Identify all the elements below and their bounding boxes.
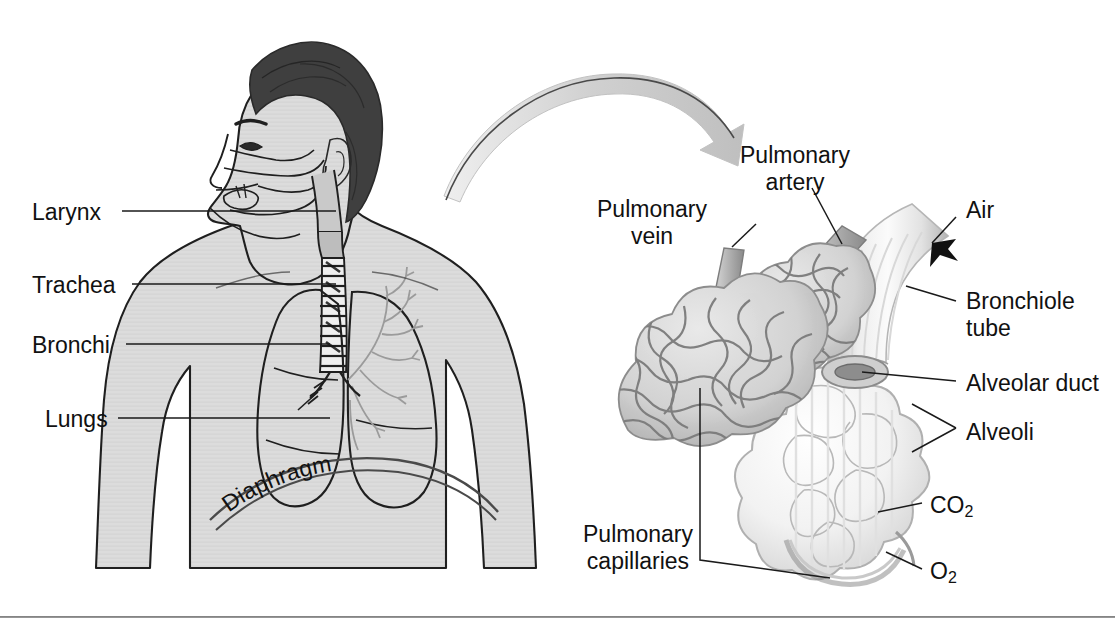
label-pulmonary-artery: Pulmonaryartery	[715, 142, 875, 196]
label-bronchi: Bronchi	[32, 332, 110, 359]
label-trachea: Trachea	[32, 272, 116, 299]
label-diaphragm: Diaphragm	[217, 450, 333, 516]
bottom-divider	[0, 616, 1115, 618]
label-lungs: Lungs	[45, 406, 108, 433]
svg-text:Diaphragm: Diaphragm	[217, 450, 333, 516]
leader-pulmonary-vein	[732, 224, 756, 247]
air-arrowhead	[930, 239, 958, 267]
label-pulmonary-capillaries-text: Pulmonarycapillaries	[583, 521, 693, 574]
label-pulmonary-vein: Pulmonaryvein	[572, 196, 732, 250]
label-co2-formula: CO	[930, 492, 965, 518]
label-co2: CO2	[930, 492, 973, 525]
label-o2: O2	[930, 558, 957, 591]
label-co2-subscript: 2	[965, 503, 974, 520]
label-pulmonary-vein-text: Pulmonaryvein	[597, 196, 707, 249]
label-pulmonary-artery-text: Pulmonaryartery	[740, 142, 850, 195]
label-o2-subscript: 2	[948, 569, 957, 586]
label-alveoli: Alveoli	[966, 419, 1034, 446]
leader-pulmonary-artery	[812, 188, 842, 244]
label-alveolar-duct: Alveolar duct	[966, 370, 1099, 397]
leader-bronchiole	[906, 286, 956, 301]
label-diaphragm-curved: Diaphragm	[200, 452, 530, 572]
respiratory-system-figure: Larynx Trachea Bronchi Lungs Diaphragm P…	[0, 0, 1115, 625]
label-bronchiole-tube: Bronchioletube	[966, 288, 1075, 342]
label-air: Air	[966, 197, 994, 224]
label-pulmonary-capillaries: Pulmonarycapillaries	[548, 521, 728, 575]
transition-arrow	[444, 74, 744, 202]
label-o2-formula: O	[930, 558, 948, 584]
label-larynx: Larynx	[32, 199, 101, 226]
